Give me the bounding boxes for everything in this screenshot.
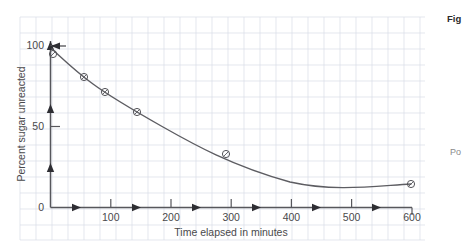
x-tick-label-300: 300 <box>222 211 240 223</box>
y-tick-label-100: 100 <box>26 39 44 51</box>
x-tick-label-200: 200 <box>162 211 180 223</box>
sugar-inversion-chart: 100 50 0 100 200 300 400 500 600 Time el… <box>0 0 462 248</box>
y-tick-label-50: 50 <box>32 120 44 132</box>
y-axis-title: Percent sugar unreacted <box>15 66 27 181</box>
x-tick-label-600: 600 <box>403 211 421 223</box>
x-tick-label-500: 500 <box>343 211 361 223</box>
x-tick-label-400: 400 <box>283 211 301 223</box>
chart-grid <box>20 17 425 240</box>
y-tick-label-0: 0 <box>38 201 44 213</box>
x-tick-label-100: 100 <box>102 211 120 223</box>
x-axis-title: Time elapsed in minutes <box>174 226 287 238</box>
figure-caption-label: Fig <box>447 13 461 24</box>
figure-side-note: Po <box>450 147 461 157</box>
figure-root: 100 50 0 100 200 300 400 500 600 Time el… <box>0 0 462 248</box>
